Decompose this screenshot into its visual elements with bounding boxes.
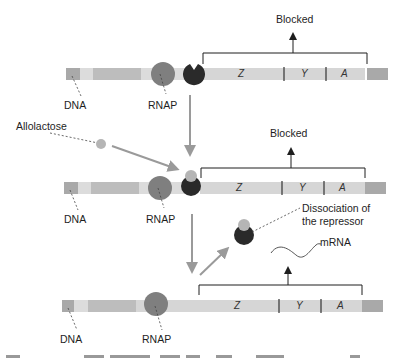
gene-y-label: Y	[301, 69, 308, 79]
dissociation-label-line2: the repressor	[302, 216, 364, 227]
rnap-circle	[144, 292, 168, 316]
dna-label: DNA	[64, 214, 86, 225]
rnap-circle	[148, 176, 172, 200]
gene-y-label: Y	[299, 183, 306, 193]
allolactose-bound-icon	[238, 219, 250, 231]
dna-label: DNA	[60, 334, 82, 345]
panel-2	[50, 133, 386, 210]
panel-3	[62, 270, 383, 330]
mrna-label: mRNA	[320, 237, 351, 248]
gene-z-label: Z	[238, 69, 244, 79]
gene-a-label: A	[339, 183, 346, 193]
gene-y-label: Y	[296, 301, 303, 311]
gene-z-label: Z	[236, 183, 242, 193]
rnap-label: RNAP	[148, 100, 177, 111]
rnap-circle	[151, 62, 175, 86]
dna-strand	[66, 68, 388, 80]
blocked-label: Blocked	[276, 14, 313, 25]
cut-off-caption	[0, 352, 399, 358]
dna-label: DNA	[64, 100, 86, 111]
dna-strand	[62, 300, 383, 312]
allolactose-icon	[96, 139, 106, 149]
gene-a-label: A	[337, 301, 344, 311]
blocked-label: Blocked	[270, 128, 307, 139]
dna-strand	[64, 182, 386, 194]
repressor-icon	[183, 64, 205, 85]
process-arrow-dissociation	[200, 251, 225, 275]
dissociation-label-line1: Dissociation of	[302, 203, 370, 214]
allolactose-bound-icon	[185, 170, 197, 182]
gene-z-label: Z	[234, 301, 240, 311]
rnap-label: RNAP	[146, 214, 175, 225]
panel-1	[66, 36, 388, 96]
mrna-icon	[271, 244, 321, 257]
process-arrow-allolactose	[112, 146, 174, 168]
rnap-label: RNAP	[142, 334, 171, 345]
allolactose-label: Allolactose	[16, 121, 67, 132]
gene-a-label: A	[341, 69, 348, 79]
